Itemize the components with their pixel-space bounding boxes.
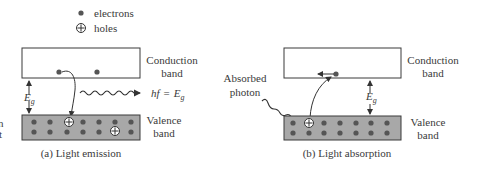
legend-holes-label: holes	[94, 22, 117, 34]
conduction-band-label: band	[422, 67, 444, 79]
valence-band-label: band	[417, 129, 439, 141]
legend-electrons-label: electrons	[94, 7, 134, 19]
valence-band	[284, 116, 401, 140]
legend: electrons holes	[77, 7, 134, 34]
absorbed-photon-label: Absorbed	[224, 72, 267, 84]
conduction-band	[284, 48, 401, 78]
photon-energy-label: hf=Eg	[151, 87, 185, 102]
valence-band-label: band	[153, 127, 175, 139]
hole-icon	[305, 119, 314, 128]
conduction-band-label: Conduction	[146, 54, 198, 66]
electron-icon	[56, 69, 61, 74]
hole-legend-icon	[77, 24, 86, 33]
conduction-band-label: Conduction	[407, 54, 459, 66]
absorbed-photon-label: photon	[230, 86, 261, 98]
energy-gap-label: Eg	[365, 90, 377, 105]
caption-light-absorption: (b) Light absorption	[303, 147, 392, 160]
panel-light-absorption: Conduction band Eg Absorbed photon	[224, 48, 460, 160]
excitation-arrow	[310, 77, 331, 118]
caption-light-emission: (a) Light emission	[41, 147, 122, 160]
valence-band-label: Valence	[147, 114, 182, 126]
hole-icon	[65, 118, 74, 127]
electron-legend-icon	[78, 10, 83, 15]
valence-band-label: Valence	[411, 116, 446, 128]
panel-light-emission: Conduction band Eg hf=Eg	[22, 48, 198, 160]
electron-icon	[94, 69, 99, 74]
valence-band	[22, 115, 140, 140]
conduction-band-label: band	[161, 67, 183, 79]
left-edge-fragment: t	[0, 128, 2, 140]
photon-wave-icon	[80, 91, 140, 95]
band-diagram: electrons holes n t Conduction band Eg h…	[0, 0, 486, 169]
hole-icon	[111, 127, 120, 136]
electron-icon	[333, 71, 338, 76]
conduction-band	[22, 48, 140, 78]
